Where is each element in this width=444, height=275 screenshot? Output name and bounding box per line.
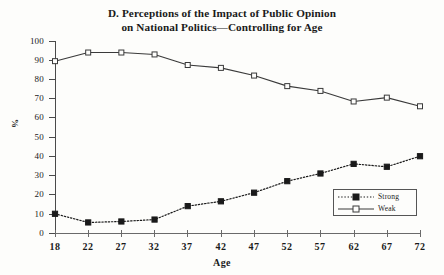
data-point-strong-22 xyxy=(86,220,91,225)
x-tick-label-37: 37 xyxy=(172,241,202,252)
legend-swatch-strong-dotted-line xyxy=(337,191,375,203)
data-point-weak-72 xyxy=(418,104,423,109)
data-point-strong-72 xyxy=(417,154,422,159)
data-point-weak-37 xyxy=(185,63,190,68)
data-point-weak-47 xyxy=(252,73,257,78)
legend-label-strong: Strong xyxy=(378,192,399,202)
x-tick-label-27: 27 xyxy=(106,241,136,252)
data-point-strong-27 xyxy=(119,219,124,224)
data-point-strong-62 xyxy=(351,161,356,166)
data-point-weak-42 xyxy=(218,65,223,70)
data-point-weak-62 xyxy=(351,99,356,104)
x-tick-label-62: 62 xyxy=(339,241,369,252)
x-tick-label-47: 47 xyxy=(239,241,269,252)
y-axis-title: % xyxy=(10,119,20,128)
legend-entry-strong: Strong xyxy=(337,191,415,203)
chart-title-line-1: D. Perceptions of the Impact of Public O… xyxy=(0,6,444,20)
y-tick-label-90: 90 xyxy=(18,56,44,65)
data-point-strong-57 xyxy=(318,171,323,176)
legend-swatch-weak-solid-line xyxy=(337,203,375,215)
x-tick-label-52: 52 xyxy=(272,241,302,252)
data-point-weak-18 xyxy=(53,59,58,64)
legend-box: Strong Weak xyxy=(333,189,417,216)
data-point-strong-67 xyxy=(384,164,389,169)
x-tick-label-42: 42 xyxy=(206,241,236,252)
x-axis-title: Age xyxy=(0,257,444,268)
data-point-strong-52 xyxy=(285,179,290,184)
series-line-weak xyxy=(55,53,420,107)
data-point-strong-32 xyxy=(152,217,157,222)
x-tick-mark-72 xyxy=(420,230,421,237)
chart-title-line-2: on National Politics—Controlling for Age xyxy=(0,20,444,34)
y-tick-label-40: 40 xyxy=(18,152,44,161)
x-axis-line xyxy=(55,233,421,234)
x-tick-label-67: 67 xyxy=(372,241,402,252)
y-tick-label-60: 60 xyxy=(18,113,44,122)
x-tick-label-32: 32 xyxy=(139,241,169,252)
figure-chart-panel-d: D. Perceptions of the Impact of Public O… xyxy=(0,0,444,275)
x-tick-label-72: 72 xyxy=(405,241,435,252)
data-point-weak-57 xyxy=(318,88,323,93)
chart-title: D. Perceptions of the Impact of Public O… xyxy=(0,6,444,34)
y-tick-label-0: 0 xyxy=(18,229,44,238)
y-tick-label-80: 80 xyxy=(18,75,44,84)
legend-label-weak: Weak xyxy=(378,204,396,214)
y-tick-label-30: 30 xyxy=(18,171,44,180)
legend-entry-weak: Weak xyxy=(337,203,415,215)
x-tick-label-22: 22 xyxy=(73,241,103,252)
data-point-strong-42 xyxy=(218,199,223,204)
y-tick-label-50: 50 xyxy=(18,133,44,142)
x-tick-label-18: 18 xyxy=(40,241,70,252)
data-point-strong-47 xyxy=(251,190,256,195)
data-point-weak-32 xyxy=(152,52,157,57)
y-tick-label-10: 10 xyxy=(18,210,44,219)
data-point-weak-52 xyxy=(285,84,290,89)
data-point-strong-37 xyxy=(185,204,190,209)
data-point-weak-22 xyxy=(86,50,91,55)
data-point-weak-67 xyxy=(384,95,389,100)
x-tick-label-57: 57 xyxy=(305,241,335,252)
y-tick-label-20: 20 xyxy=(18,190,44,199)
data-point-weak-27 xyxy=(119,50,124,55)
y-tick-label-70: 70 xyxy=(18,94,44,103)
y-tick-label-100: 100 xyxy=(18,37,44,46)
data-point-strong-18 xyxy=(52,211,57,216)
